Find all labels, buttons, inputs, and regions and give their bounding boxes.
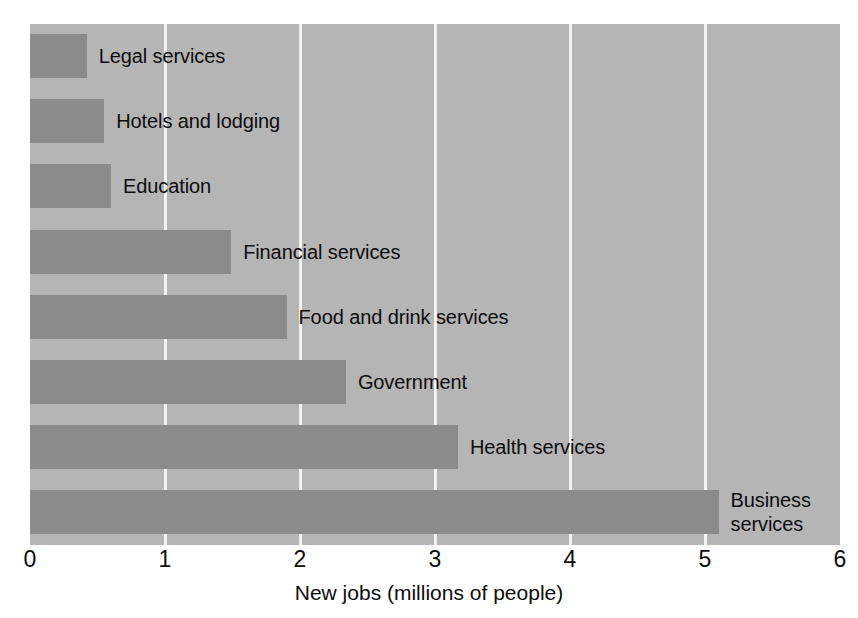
bar[interactable] [30, 490, 719, 534]
bar[interactable] [30, 360, 346, 404]
bar-group: Health services [30, 425, 840, 469]
x-tick-label: 6 [834, 545, 847, 573]
bar-label: Education [123, 174, 211, 198]
bar-group: Business services [30, 490, 840, 534]
bar-label: Hotels and lodging [116, 109, 280, 133]
bar-label: Financial services [243, 240, 400, 264]
x-tick-label: 3 [429, 545, 442, 573]
bar-group: Hotels and lodging [30, 99, 840, 143]
bar[interactable] [30, 99, 104, 143]
bar-group: Food and drink services [30, 295, 840, 339]
bar-group: Education [30, 164, 840, 208]
x-axis-title: New jobs (millions of people) [0, 580, 858, 606]
bar-group: Government [30, 360, 840, 404]
bar-label: Business services [731, 488, 811, 536]
x-tick-label: 0 [24, 545, 37, 573]
x-axis: 0123456 [0, 545, 858, 585]
bar-chart: Legal servicesHotels and lodgingEducatio… [0, 0, 858, 618]
bar[interactable] [30, 295, 287, 339]
x-tick-label: 4 [564, 545, 577, 573]
bar-group: Legal services [30, 34, 840, 78]
bar[interactable] [30, 425, 458, 469]
bar[interactable] [30, 230, 231, 274]
x-tick-label: 1 [159, 545, 172, 573]
bar-label: Government [358, 370, 467, 394]
bar-label: Legal services [99, 44, 225, 68]
bar[interactable] [30, 164, 111, 208]
plot-area: Legal servicesHotels and lodgingEducatio… [30, 24, 840, 545]
bar-label: Health services [470, 435, 605, 459]
bar-group: Financial services [30, 230, 840, 274]
bar[interactable] [30, 34, 87, 78]
x-tick-label: 5 [699, 545, 712, 573]
bar-label: Food and drink services [299, 305, 509, 329]
x-tick-label: 2 [294, 545, 307, 573]
